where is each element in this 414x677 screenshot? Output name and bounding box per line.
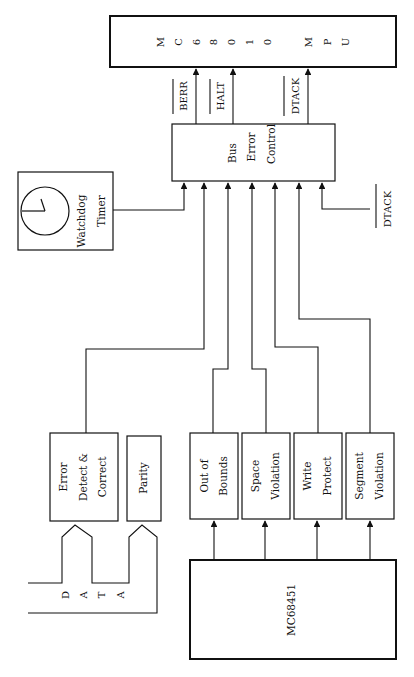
watchdog-to-bec-wire — [113, 183, 184, 210]
segment-violation-label: Segment — [353, 452, 365, 500]
bus-error-diagram: M C 6 8 0 1 0 M P U BERR HALT DTACK Bus … — [0, 0, 414, 677]
bus-error-control-label: Bus — [226, 143, 238, 163]
edc-label: Correct — [96, 456, 108, 497]
mpu-letter: M — [303, 37, 314, 47]
space-violation-block: Space Violation — [242, 433, 290, 519]
data-letter: A — [78, 591, 89, 600]
segment-violation-block: Segment Violation — [346, 433, 394, 519]
data-letter: A — [115, 591, 126, 600]
mpu-letter: M — [155, 37, 166, 47]
bus-error-control-label: Error — [245, 131, 257, 161]
mpu-block: M C 6 8 0 1 0 M P U — [110, 16, 396, 67]
out-of-bounds-label: Bounds — [217, 456, 229, 496]
dtack-out-label: DTACK — [290, 77, 301, 114]
mpu-letter: U — [340, 38, 351, 46]
bus-error-control-label: Control — [265, 123, 277, 164]
mc68451-label: MC68451 — [285, 584, 297, 636]
seg-to-bec-wire — [299, 183, 370, 433]
data-bus: D A T A — [28, 525, 157, 613]
dtack-in-label: DTACK — [382, 190, 393, 227]
mpu-letter: P — [322, 38, 333, 45]
write-protect-block: Write Protect — [294, 433, 342, 519]
parity-block: Parity — [127, 436, 161, 521]
bus-error-control-block: Bus Error Control — [172, 123, 335, 181]
out-of-bounds-block: Out of Bounds — [190, 433, 238, 519]
parity-label: Parity — [137, 462, 149, 493]
wp-to-bec-wire — [275, 183, 318, 433]
halt-signal: HALT — [210, 69, 233, 124]
mpu-letter: 0 — [262, 39, 273, 45]
out-of-bounds-label: Out of — [198, 458, 210, 492]
edc-label: Error — [57, 461, 69, 491]
space-to-bec-wire — [252, 183, 266, 433]
data-letter: D — [60, 591, 71, 599]
halt-label: HALT — [215, 81, 226, 110]
berr-signal: BERR — [173, 69, 196, 124]
edc-label: Detect & — [77, 453, 89, 501]
data-bus-lines — [28, 525, 157, 613]
watchdog-timer-label: Timer — [95, 194, 107, 227]
space-violation-label: Space — [249, 460, 261, 492]
write-protect-label: Write — [301, 461, 313, 490]
berr-label: BERR — [178, 81, 189, 111]
mc68451-block: MC68451 — [190, 560, 396, 659]
segment-violation-label: Violation — [373, 452, 385, 501]
dtack-in-signal: DTACK — [322, 183, 393, 228]
write-protect-label: Protect — [321, 456, 333, 496]
error-detect-correct-block: Error Detect & Correct — [50, 433, 118, 521]
mpu-letter: 8 — [208, 39, 219, 45]
mpu-letter: C — [173, 38, 184, 46]
watchdog-timer-block: Watchdog Timer — [18, 172, 113, 250]
oob-to-bec-wire — [213, 183, 228, 433]
data-letter: T — [96, 591, 107, 598]
mpu-letter: 1 — [244, 39, 255, 45]
space-violation-label: Violation — [269, 452, 281, 501]
mpu-letter: 6 — [191, 39, 202, 45]
watchdog-timer-label: Watchdog — [75, 194, 87, 247]
mpu-letter: 0 — [226, 39, 237, 45]
dtack-out-signal: DTACK — [284, 69, 308, 124]
